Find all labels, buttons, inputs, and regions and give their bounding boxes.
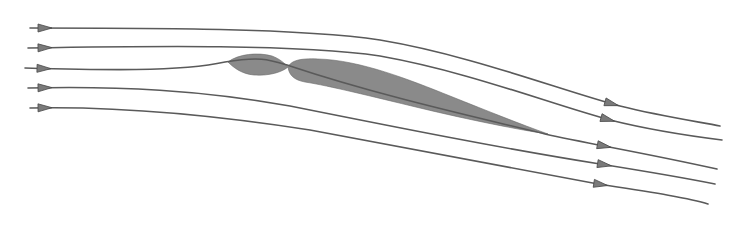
arrow-icon	[37, 64, 51, 72]
arrow-icon	[38, 84, 52, 92]
arrow-icon	[38, 104, 52, 112]
front-lobe-shape	[228, 54, 288, 75]
arrow-icon	[604, 98, 620, 110]
arrow-icon	[597, 160, 612, 170]
arrow-icon	[593, 179, 608, 189]
streamlines	[25, 28, 722, 204]
body-shapes	[228, 54, 548, 134]
flow-diagram	[0, 0, 738, 226]
main-body-shape	[288, 59, 548, 134]
arrow-icon	[38, 44, 52, 52]
arrow-icon	[597, 141, 612, 152]
arrow-icon	[38, 24, 52, 32]
flow-arrows	[37, 24, 620, 189]
arrow-icon	[600, 114, 616, 125]
